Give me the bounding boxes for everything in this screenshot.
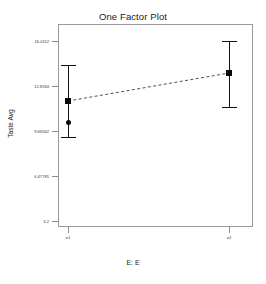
y-tick-label: 3.2 — [43, 219, 49, 224]
x-tick-label-e1: e1 — [56, 235, 80, 240]
x-tick-mark — [68, 227, 69, 233]
chart-title: One Factor Plot — [0, 11, 266, 22]
one-factor-plot-figure: One Factor Plot 16.0112 12.8334 9.65562 … — [0, 0, 266, 284]
x-axis-title: E: E — [0, 259, 266, 266]
y-tick-mark — [52, 131, 58, 132]
y-tick-mark — [52, 221, 58, 222]
x-tick-label-e2: e2 — [217, 235, 241, 240]
y-tick-mark — [52, 41, 58, 42]
y-tick-mark — [52, 176, 58, 177]
y-axis-title: Taste Avg — [7, 94, 14, 154]
y-tick-label: 12.8334 — [34, 84, 49, 89]
x-tick-mark — [229, 227, 230, 233]
y-tick-mark — [52, 86, 58, 87]
plot-frame — [58, 24, 253, 227]
y-tick-label: 9.65562 — [34, 129, 49, 134]
y-tick-label: 6.47781 — [34, 174, 49, 179]
y-tick-label: 16.0112 — [35, 39, 49, 44]
